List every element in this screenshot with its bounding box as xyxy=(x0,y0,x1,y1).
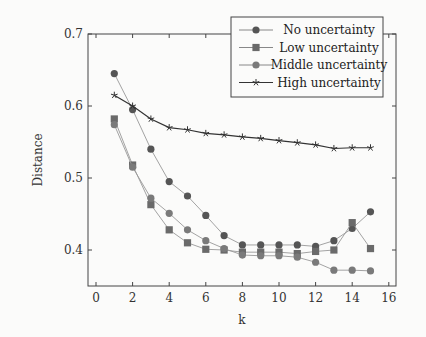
circle-marker-icon xyxy=(257,241,264,248)
square-marker-icon xyxy=(367,245,374,252)
star-marker-icon xyxy=(276,137,283,143)
circle-marker-icon xyxy=(221,245,228,252)
circle-marker-icon xyxy=(330,237,337,244)
star-marker-icon xyxy=(239,133,246,139)
circle-marker-icon xyxy=(312,259,319,266)
y-tick-label: 0.4 xyxy=(64,243,83,257)
series-high-uncertainty xyxy=(111,92,374,152)
x-tick-label: 12 xyxy=(308,291,323,305)
star-marker-icon xyxy=(257,135,264,141)
circle-marker-icon xyxy=(147,146,154,153)
circle-marker-icon xyxy=(294,241,301,248)
x-tick-label: 4 xyxy=(165,291,173,305)
y-tick-label: 0.5 xyxy=(64,171,83,185)
circle-marker-icon xyxy=(239,241,246,248)
y-axis-label: Distance xyxy=(31,133,45,186)
square-marker-icon xyxy=(166,226,173,233)
x-tick-label: 6 xyxy=(202,291,210,305)
circle-marker-icon xyxy=(184,192,191,199)
star-marker-icon xyxy=(367,144,374,150)
series-line xyxy=(114,74,370,247)
circle-marker-icon xyxy=(252,26,259,33)
circle-marker-icon xyxy=(129,164,136,171)
circle-marker-icon xyxy=(111,70,118,77)
x-tick-label: 8 xyxy=(239,291,247,305)
square-marker-icon xyxy=(147,201,154,208)
line-chart: 02468101214160.40.50.60.7kDistance No un… xyxy=(0,0,426,337)
legend-label: Middle uncertainty xyxy=(271,58,388,72)
circle-marker-icon xyxy=(184,226,191,233)
legend-label: High uncertainty xyxy=(277,76,381,90)
circle-marker-icon xyxy=(349,267,356,274)
y-tick-label: 0.6 xyxy=(64,99,83,113)
circle-marker-icon xyxy=(367,267,374,274)
circle-marker-icon xyxy=(202,237,209,244)
x-tick-label: 16 xyxy=(381,291,396,305)
star-marker-icon xyxy=(331,145,338,151)
x-tick-label: 2 xyxy=(129,291,137,305)
x-tick-label: 10 xyxy=(271,291,286,305)
circle-marker-icon xyxy=(221,232,228,239)
circle-marker-icon xyxy=(239,251,246,258)
star-marker-icon xyxy=(349,144,356,150)
square-marker-icon xyxy=(202,246,209,253)
square-marker-icon xyxy=(330,246,337,253)
x-axis-label: k xyxy=(238,313,246,327)
square-marker-icon xyxy=(252,44,259,51)
legend: No uncertaintyLow uncertaintyMiddle unce… xyxy=(231,17,387,97)
circle-marker-icon xyxy=(275,241,282,248)
circle-marker-icon xyxy=(367,208,374,215)
circle-marker-icon xyxy=(294,254,301,261)
star-marker-icon xyxy=(221,131,228,137)
legend-label: Low uncertainty xyxy=(279,41,379,55)
legend-label: No uncertainty xyxy=(283,23,375,37)
circle-marker-icon xyxy=(111,121,118,128)
star-marker-icon xyxy=(184,126,191,132)
circle-marker-icon xyxy=(330,267,337,274)
circle-marker-icon xyxy=(252,61,259,68)
star-marker-icon xyxy=(312,141,319,147)
x-tick-label: 0 xyxy=(92,291,100,305)
circle-marker-icon xyxy=(166,178,173,185)
circle-marker-icon xyxy=(275,252,282,259)
circle-marker-icon xyxy=(202,212,209,219)
circle-marker-icon xyxy=(147,195,154,202)
square-marker-icon xyxy=(312,248,319,255)
x-tick-label: 14 xyxy=(345,291,361,305)
star-marker-icon xyxy=(148,115,155,121)
star-marker-icon xyxy=(166,124,173,130)
series-line xyxy=(114,119,370,254)
square-marker-icon xyxy=(349,219,356,226)
y-tick-label: 0.7 xyxy=(64,27,83,41)
star-marker-icon xyxy=(294,139,301,145)
series-layer xyxy=(111,70,374,274)
square-marker-icon xyxy=(184,239,191,246)
circle-marker-icon xyxy=(166,210,173,217)
star-marker-icon xyxy=(202,130,209,136)
circle-marker-icon xyxy=(257,252,264,259)
